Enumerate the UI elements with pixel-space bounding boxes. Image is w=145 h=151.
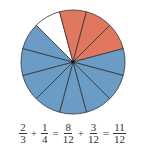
- fraction-1-4: 14: [41, 122, 49, 145]
- equals-sign: =: [103, 127, 109, 139]
- equals-sign: =: [52, 127, 58, 139]
- center-dot: [71, 60, 74, 63]
- plus-sign: +: [78, 127, 84, 139]
- fraction-3-12: 312: [88, 122, 99, 145]
- fraction-8-12: 812: [63, 122, 74, 145]
- fraction-11-12: 1112: [113, 122, 126, 145]
- plus-sign: +: [31, 127, 37, 139]
- fraction-pie-chart: [0, 0, 145, 118]
- fraction-2-3: 23: [19, 122, 27, 145]
- fraction-equation: 23 + 14 = 812 + 312 = 1112: [0, 118, 145, 148]
